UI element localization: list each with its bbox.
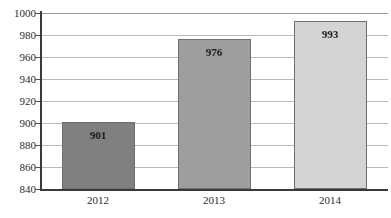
y-tick-label: 940 bbox=[0, 74, 36, 85]
bar-chart: 1000980960940920900880860840 901976993 2… bbox=[0, 0, 391, 218]
y-tick-label: 980 bbox=[0, 30, 36, 41]
x-axis-line bbox=[40, 189, 388, 191]
y-tick-label: 840 bbox=[0, 184, 36, 195]
y-tick-label: 960 bbox=[0, 52, 36, 63]
bar-value-label: 901 bbox=[63, 129, 134, 141]
y-tick-label: 920 bbox=[0, 96, 36, 107]
x-category-label: 2012 bbox=[40, 194, 156, 207]
y-tick-label: 860 bbox=[0, 162, 36, 173]
x-axis-category-labels: 201220132014 bbox=[40, 194, 388, 214]
x-category-label: 2013 bbox=[156, 194, 272, 207]
bar-value-label: 976 bbox=[179, 46, 250, 58]
x-category-label: 2014 bbox=[272, 194, 388, 207]
bar-2013: 976 bbox=[178, 39, 251, 189]
y-axis-tick-labels: 1000980960940920900880860840 bbox=[0, 0, 36, 218]
gridline-1000 bbox=[40, 13, 388, 14]
y-tick-label: 880 bbox=[0, 140, 36, 151]
bar-2012: 901 bbox=[62, 122, 135, 189]
y-tick-label: 900 bbox=[0, 118, 36, 129]
bar-2014: 993 bbox=[294, 21, 367, 189]
y-tick-label: 1000 bbox=[0, 8, 36, 19]
bar-value-label: 993 bbox=[295, 28, 366, 40]
plot-area: 901976993 bbox=[40, 13, 388, 189]
y-axis-line bbox=[40, 11, 42, 191]
